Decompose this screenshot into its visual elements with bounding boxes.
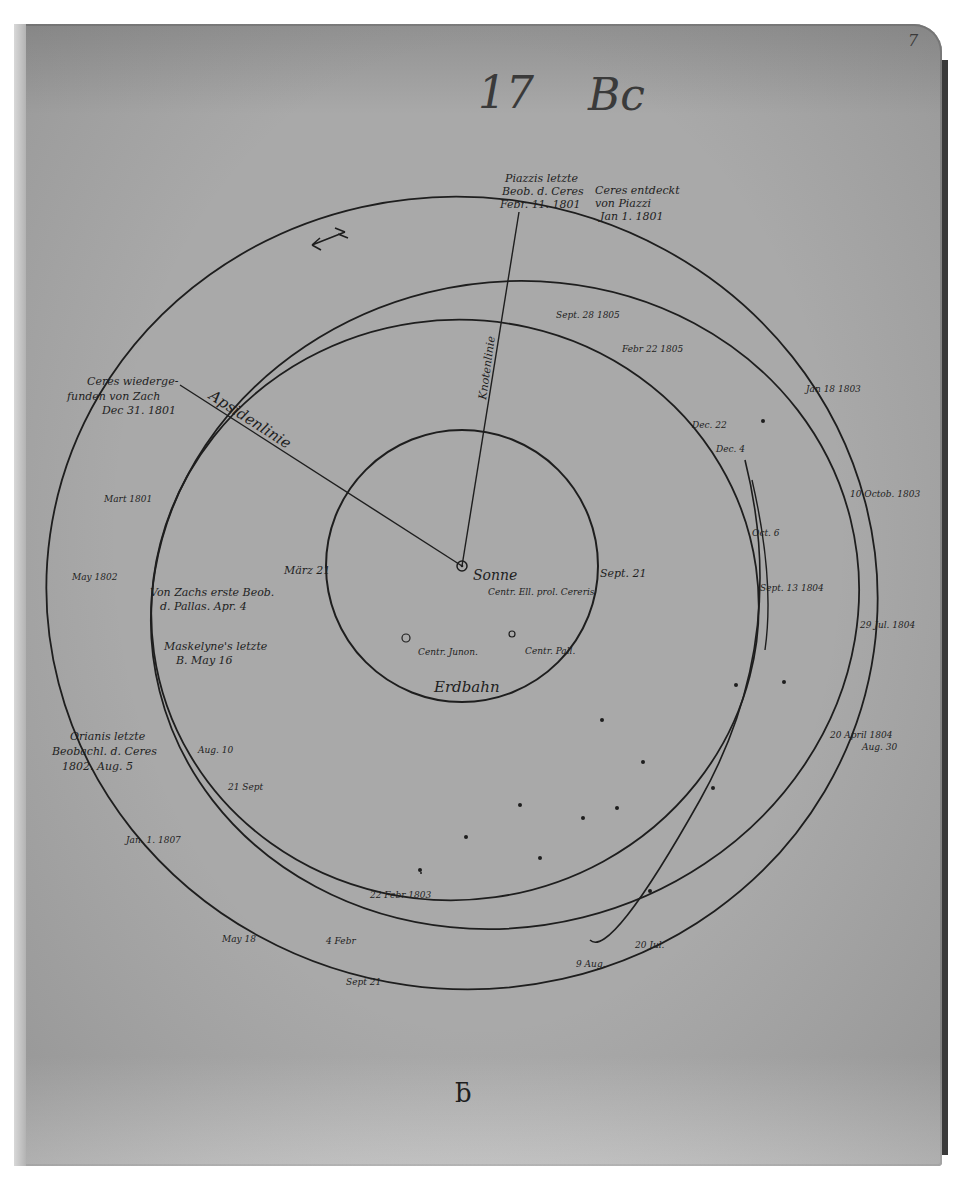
annotation-piazzi-last: Piazzis letzte Beob. d. Ceres Febr. 11. … bbox=[499, 172, 584, 211]
svg-text:Ceres wiederge-: Ceres wiederge- bbox=[87, 375, 179, 388]
node-line-label: Knotenlinie bbox=[476, 335, 498, 402]
sun-dot bbox=[461, 565, 464, 568]
date-tick: May 1802 bbox=[71, 572, 118, 582]
apse-line-label: Apsidenlinie bbox=[204, 385, 294, 452]
date-tick: 4 Febr bbox=[325, 936, 356, 946]
date-tick: Aug. 30 bbox=[861, 742, 898, 752]
annotation-maskelyne-last: Maskelyne's letzte B. May 16 bbox=[163, 640, 268, 667]
direction-arrow-icon bbox=[312, 228, 348, 250]
svg-text:Jan 1. 1801: Jan 1. 1801 bbox=[598, 210, 664, 223]
earth-orbit-label: Erdbahn bbox=[433, 678, 500, 696]
date-tick: Sept. 13 1804 bbox=[760, 583, 824, 593]
juno-center-icon bbox=[402, 634, 410, 642]
date-tick: Febr 22 1805 bbox=[621, 344, 683, 354]
sun-label: Sonne bbox=[473, 567, 517, 583]
svg-text:funden von Zach: funden von Zach bbox=[66, 390, 160, 403]
svg-text:B. May 16: B. May 16 bbox=[175, 654, 233, 667]
svg-text:Beobachl. d. Ceres: Beobachl. d. Ceres bbox=[51, 745, 157, 758]
pallas-center-icon bbox=[509, 631, 515, 637]
date-tick: Sept. 28 1805 bbox=[556, 310, 620, 320]
date-tick: Oct. 6 bbox=[752, 528, 780, 538]
annotation-ceres-refound: Ceres wiederge- funden von Zach Dec 31. … bbox=[66, 375, 179, 417]
svg-text:1802. Aug. 5: 1802. Aug. 5 bbox=[62, 760, 133, 773]
pallas-center-label: Centr. Pall. bbox=[525, 646, 575, 656]
svg-text:Piazzis letzte: Piazzis letzte bbox=[504, 172, 578, 185]
date-tick: Mart 1801 bbox=[103, 494, 152, 504]
date-tick: 21 Sept bbox=[227, 782, 264, 792]
sept-label: Sept. 21 bbox=[600, 567, 647, 580]
march-label: März 21 bbox=[283, 564, 330, 577]
svg-text:Maskelyne's letzte: Maskelyne's letzte bbox=[163, 640, 268, 653]
date-tick: Aug. 10 bbox=[197, 745, 234, 755]
juno-center-label: Centr. Junon. bbox=[418, 647, 478, 657]
date-tick: 20 Jul. bbox=[634, 940, 665, 950]
apse-line bbox=[180, 385, 462, 566]
orbit-diagram: 17 Bc 7 Sonne Erdbahn März 21 Sept. 21 bbox=[0, 0, 955, 1195]
corner-page-number: 7 bbox=[908, 31, 919, 50]
annotation-ceres-discovered: Ceres entdeckt von Piazzi Jan 1. 1801 bbox=[595, 184, 680, 223]
ceres-center-label: Centr. Ell. prol. Cereris bbox=[488, 587, 595, 597]
date-tick: 29 Jul. 1804 bbox=[859, 620, 915, 630]
svg-text:Ceres entdeckt: Ceres entdeckt bbox=[595, 184, 680, 197]
date-tick: Jan. 1. 1807 bbox=[124, 835, 181, 845]
svg-text:Orianis letzte: Orianis letzte bbox=[70, 730, 146, 743]
orbit-arc-inner-right bbox=[590, 460, 760, 942]
annotation-orianis-last: Orianis letzte Beobachl. d. Ceres 1802. … bbox=[51, 730, 157, 773]
svg-text:d. Pallas. Apr. 4: d. Pallas. Apr. 4 bbox=[160, 600, 247, 613]
svg-text:Beob. d. Ceres: Beob. d. Ceres bbox=[501, 185, 584, 198]
date-tick: 10 Octob. 1803 bbox=[850, 489, 920, 499]
date-tick: May 18 bbox=[221, 934, 256, 944]
header-number: 17 bbox=[478, 67, 534, 118]
date-tick: 20 April 1804 bbox=[829, 730, 893, 740]
header-mark: Bc bbox=[587, 69, 645, 120]
date-tick: Dec. 22 bbox=[691, 420, 727, 430]
date-tick: Dec. 4 bbox=[715, 444, 745, 454]
date-tick: Jan 18 1803 bbox=[804, 384, 861, 394]
svg-text:Von Zachs erste Beob.: Von Zachs erste Beob. bbox=[150, 586, 274, 599]
date-tick: 9 Aug. bbox=[576, 959, 606, 969]
svg-text:von Piazzi: von Piazzi bbox=[595, 197, 651, 210]
annotation-zach-first-pallas: Von Zachs erste Beob. d. Pallas. Apr. 4 bbox=[150, 586, 274, 613]
date-tick: Sept 21 bbox=[346, 977, 381, 987]
orbit-outer bbox=[0, 143, 929, 1043]
svg-text:Febr. 11. 1801: Febr. 11. 1801 bbox=[499, 198, 581, 211]
svg-text:Dec 31. 1801: Dec 31. 1801 bbox=[101, 404, 176, 417]
date-tick: 22 Febr 1803 bbox=[369, 890, 431, 900]
footer-glyph: ƃ bbox=[455, 1078, 472, 1108]
